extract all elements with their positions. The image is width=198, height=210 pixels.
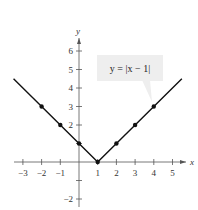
x-tick-label: −1 (56, 168, 66, 178)
equation-callout: y = |x − 1| (97, 55, 163, 102)
absolute-value-graph: y = |x − 1| xy−3−2−112345−223456 (0, 0, 198, 210)
y-axis-arrow-icon (77, 38, 81, 44)
data-point (39, 104, 43, 108)
data-point (96, 160, 100, 164)
data-point (114, 141, 118, 145)
equation-label: y = |x − 1| (110, 63, 150, 74)
function-line (14, 79, 182, 162)
x-axis-label: x (189, 157, 194, 167)
x-tick-label: 2 (114, 168, 119, 178)
x-axis-arrow-icon (180, 160, 186, 164)
y-axis-label: y (75, 26, 80, 36)
data-point (152, 104, 156, 108)
y-tick-label: 2 (69, 120, 74, 130)
x-tick-label: 4 (152, 168, 157, 178)
axes: xy−3−2−112345−223456 (14, 26, 194, 207)
y-tick-label: 6 (69, 46, 74, 56)
y-tick-label: 4 (69, 83, 74, 93)
x-tick-label: −3 (18, 168, 28, 178)
data-point (58, 123, 62, 127)
x-tick-label: 3 (133, 168, 138, 178)
x-tick-label: 1 (95, 168, 100, 178)
x-tick-label: −2 (37, 168, 47, 178)
data-point (77, 141, 81, 145)
x-tick-label: 5 (170, 168, 175, 178)
data-point (133, 123, 137, 127)
y-tick-label: 5 (69, 65, 74, 75)
plot-series (14, 79, 182, 164)
y-tick-label: −2 (63, 194, 73, 204)
y-tick-label: 3 (69, 102, 74, 112)
